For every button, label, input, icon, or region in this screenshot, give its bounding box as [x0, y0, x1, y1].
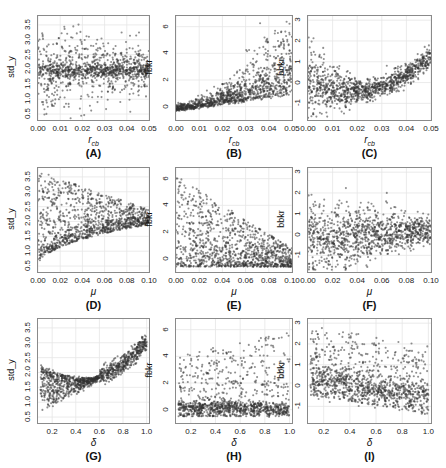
- y-axis-label: fbkr: [144, 199, 154, 239]
- x-tick-label: 1.0: [416, 427, 440, 436]
- x-axis-label: δ: [74, 437, 114, 448]
- scatter-points: [38, 16, 149, 120]
- x-axis-label: μ: [350, 286, 390, 297]
- x-tick-label: 0.00: [296, 276, 320, 285]
- y-axis-label: std_y: [6, 199, 16, 239]
- x-tick-label: 1.0: [278, 427, 302, 436]
- y-tick-label: 2: [293, 30, 302, 50]
- y-tick-label: 3.5: [23, 14, 32, 34]
- x-tick-label: 0.10: [419, 276, 443, 285]
- scatter-points: [176, 319, 292, 423]
- x-tick-label: 0.04: [394, 124, 418, 133]
- plot-area: [307, 167, 432, 273]
- x-tick-label: 0.02: [345, 124, 369, 133]
- y-tick-label: 6: [161, 168, 170, 188]
- x-axis-label: rcb: [74, 134, 114, 147]
- x-tick-label: 0.6: [87, 427, 111, 436]
- x-tick-label: 0.02: [70, 124, 94, 133]
- y-axis-label: bbkr: [276, 199, 286, 239]
- y-axis-label: std_y: [6, 350, 16, 390]
- plot-area: [307, 15, 432, 121]
- panel-caption: (G): [74, 450, 114, 462]
- x-tick-label: 0.8: [253, 427, 277, 436]
- plot-area: [37, 167, 150, 273]
- y-tick-label: 6: [161, 319, 170, 339]
- x-tick-label: 0.00: [164, 124, 188, 133]
- scatter-points: [38, 168, 149, 272]
- x-tick-label: 0.2: [179, 427, 203, 436]
- x-tick-label: 0.01: [187, 124, 211, 133]
- y-tick-label: -1: [293, 93, 302, 113]
- panel-caption: (H): [214, 450, 254, 462]
- x-tick-label: 0.06: [93, 276, 117, 285]
- x-tick-label: 0.10: [137, 276, 161, 285]
- y-tick-label: 4: [161, 195, 170, 215]
- scatter-points: [176, 168, 292, 272]
- y-tick-label: 1: [293, 354, 302, 374]
- y-tick-label: 0: [293, 224, 302, 244]
- y-tick-label: 3: [293, 10, 302, 30]
- x-axis-label: δ: [214, 437, 254, 448]
- x-tick-label: 0.05: [419, 124, 443, 133]
- y-axis-label: bbkr: [276, 350, 286, 390]
- x-tick-label: 0.08: [394, 276, 418, 285]
- x-tick-label: 0.6: [364, 427, 388, 436]
- y-tick-label: 0: [293, 72, 302, 92]
- scatter-points: [308, 319, 431, 423]
- scatter-points: [38, 319, 149, 423]
- x-axis-label: μ: [214, 286, 254, 297]
- x-tick-label: 0.00: [296, 124, 320, 133]
- y-tick-label: 0: [293, 375, 302, 395]
- y-tick-label: 3.5: [23, 166, 32, 186]
- y-tick-label: 2: [161, 373, 170, 393]
- x-tick-label: 0.4: [64, 427, 88, 436]
- x-tick-label: 0.02: [48, 276, 72, 285]
- x-axis-label: δ: [350, 437, 390, 448]
- x-tick-label: 0.08: [257, 276, 281, 285]
- y-axis-label: fbkr: [144, 47, 154, 87]
- y-tick-label: 2: [161, 70, 170, 90]
- panel-caption: (I): [350, 450, 390, 462]
- x-axis-label: μ: [74, 286, 114, 297]
- x-tick-label: 0.06: [234, 276, 258, 285]
- x-axis-label: rcb: [214, 134, 254, 147]
- x-tick-label: 0.02: [210, 124, 234, 133]
- x-tick-label: 0.00: [26, 276, 50, 285]
- x-tick-label: 0.02: [321, 276, 345, 285]
- x-tick-label: 0.2: [40, 427, 64, 436]
- y-tick-label: 2: [161, 222, 170, 242]
- x-tick-label: 0.00: [164, 276, 188, 285]
- y-tick-label: 3: [293, 162, 302, 182]
- x-tick-label: 0.02: [187, 276, 211, 285]
- plot-area: [37, 15, 150, 121]
- x-tick-label: 0.04: [345, 276, 369, 285]
- y-tick-label: 1: [293, 51, 302, 71]
- x-tick-label: 0.04: [115, 124, 139, 133]
- panel-caption: (D): [74, 299, 114, 311]
- x-tick-label: 0.05: [137, 124, 161, 133]
- panel-caption: (E): [214, 299, 254, 311]
- x-axis-label: rcb: [350, 134, 390, 147]
- x-tick-label: 1.0: [135, 427, 159, 436]
- y-tick-label: 3.5: [23, 317, 32, 337]
- x-tick-label: 0.00: [26, 124, 50, 133]
- x-tick-label: 0.06: [370, 276, 394, 285]
- y-tick-label: 3: [293, 313, 302, 333]
- scatter-points: [308, 168, 431, 272]
- y-tick-label: 4: [161, 346, 170, 366]
- y-tick-label: 6: [161, 16, 170, 36]
- y-axis-label: fbkr: [144, 350, 154, 390]
- x-tick-label: 0.4: [338, 427, 362, 436]
- x-tick-label: 0.03: [93, 124, 117, 133]
- x-tick-label: 0.2: [312, 427, 336, 436]
- y-tick-label: 0: [161, 399, 170, 419]
- x-tick-label: 0.01: [48, 124, 72, 133]
- x-tick-label: 0.03: [370, 124, 394, 133]
- plot-area: [37, 318, 150, 424]
- x-tick-label: 0.8: [111, 427, 135, 436]
- y-tick-label: 2: [293, 182, 302, 202]
- panel-caption: (B): [214, 147, 254, 159]
- y-tick-label: -1: [293, 245, 302, 265]
- plot-area: [307, 318, 432, 424]
- x-tick-label: 0.08: [115, 276, 139, 285]
